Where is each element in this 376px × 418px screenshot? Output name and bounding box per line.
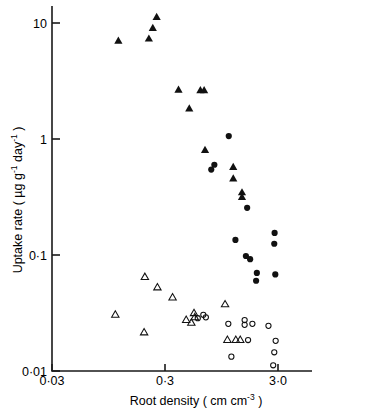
data-point-filled-triangle (153, 13, 161, 20)
data-point-open-circle (271, 363, 276, 368)
axes-group: 0·030·33·0 0·010·1110 (22, 6, 312, 388)
x-axis-ticks (52, 364, 278, 371)
data-point-filled-triangle (174, 85, 182, 92)
data-point-open-triangle (140, 328, 147, 334)
figure-container: 0·030·33·0 0·010·1110 Root density ( cm … (0, 0, 376, 418)
data-point-open-circle (226, 321, 231, 326)
data-point-open-circle (272, 350, 277, 355)
data-point-filled-circle (272, 230, 278, 236)
svg-text:Uptake rate ( µg g-1 day-1 ): Uptake rate ( µg g-1 day-1 ) (9, 127, 25, 274)
data-point-filled-circle (271, 241, 277, 247)
x-tick-label: 3·0 (269, 374, 287, 388)
data-point-open-triangle (154, 283, 161, 289)
data-point-filled-circle (254, 270, 260, 276)
y-axis-ticks (52, 23, 60, 371)
data-point-filled-circle (226, 133, 232, 139)
x-tick-label: 0·3 (156, 374, 174, 388)
data-point-filled-triangle (145, 34, 153, 41)
data-point-open-triangle (169, 294, 176, 300)
data-point-filled-triangle (229, 163, 237, 170)
scatter-plot: 0·030·33·0 0·010·1110 Root density ( cm … (0, 0, 376, 418)
data-point-open-circle (250, 321, 255, 326)
data-point-open-triangle (141, 273, 148, 279)
data-point-open-circle (245, 337, 250, 342)
y-tick-label: 10 (33, 17, 47, 31)
data-point-filled-triangle (201, 146, 209, 153)
y-tick-label: 1 (40, 133, 47, 147)
data-point-filled-triangle (149, 24, 157, 31)
y-axis-tick-labels: 0·010·1110 (22, 17, 47, 379)
data-point-filled-circle (232, 237, 238, 243)
data-point-filled-circle (253, 278, 259, 284)
data-point-filled-triangle (185, 104, 193, 111)
data-point-open-triangle (221, 300, 228, 306)
y-tick-label: 0·1 (29, 249, 47, 263)
data-point-filled-triangle (229, 174, 237, 181)
data-point-open-circle (273, 338, 278, 343)
data-point-filled-circle (244, 205, 250, 211)
data-point-open-circle (229, 354, 234, 359)
data-point-open-triangle (182, 316, 189, 322)
x-axis-title: Root density ( cm cm-3 ) (130, 392, 263, 408)
data-point-open-triangle (224, 336, 231, 342)
data-point-open-triangle (112, 311, 119, 317)
axis-lines (52, 6, 312, 371)
data-point-filled-triangle (114, 37, 122, 44)
x-axis-tick-labels: 0·030·33·0 (39, 374, 287, 388)
data-point-open-circle (266, 323, 271, 328)
data-point-filled-circle (208, 166, 214, 172)
data-markers-group (112, 13, 279, 368)
data-point-filled-circle (247, 256, 253, 262)
data-point-filled-circle (272, 271, 278, 277)
y-tick-label: 0·01 (22, 365, 47, 379)
y-axis-title: Uptake rate ( µg g-1 day-1 ) (9, 127, 25, 274)
